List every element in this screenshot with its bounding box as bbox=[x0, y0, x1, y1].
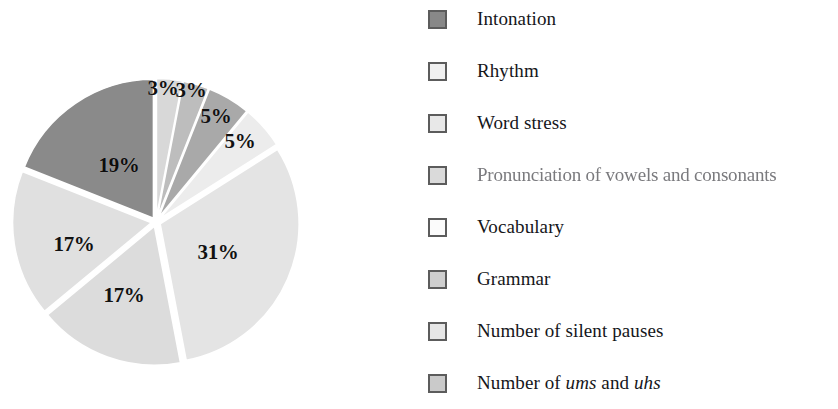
legend-swatch-icon bbox=[428, 114, 447, 133]
legend-item-label: Rhythm bbox=[477, 60, 539, 82]
legend-item-label: Pronunciation of vowels and consonants bbox=[477, 164, 777, 186]
legend-item[interactable]: Pronunciation of vowels and consonants bbox=[428, 162, 777, 188]
legend-swatch-icon bbox=[428, 218, 447, 237]
pie-chart-figure: 3%3%5%5%31%17%17%19% IntonationRhythmWor… bbox=[0, 0, 838, 409]
pie-slice-label: 5% bbox=[201, 106, 232, 127]
legend-item[interactable]: Vocabulary bbox=[428, 214, 564, 240]
pie-slice-label: 5% bbox=[225, 131, 256, 152]
pie-slice-label: 17% bbox=[53, 234, 94, 255]
legend-item[interactable]: Number of silent pauses bbox=[428, 318, 663, 344]
pie-slice-label: 3% bbox=[148, 78, 179, 99]
legend-swatch-icon bbox=[428, 270, 447, 289]
pie-slice-label: 31% bbox=[197, 242, 238, 263]
legend-item-label: Word stress bbox=[477, 112, 567, 134]
legend-swatch-icon bbox=[428, 166, 447, 185]
legend-item-label: Number of ums and uhs bbox=[477, 372, 661, 394]
legend-item-label: Grammar bbox=[477, 268, 551, 290]
legend-swatch-icon bbox=[428, 62, 447, 81]
legend-item[interactable]: Intonation bbox=[428, 6, 556, 32]
legend-item[interactable]: Number of ums and uhs bbox=[428, 370, 661, 396]
legend-item-label: Intonation bbox=[477, 8, 556, 30]
legend-swatch-icon bbox=[428, 374, 447, 393]
pie-slice-label: 19% bbox=[98, 155, 139, 176]
legend-item[interactable]: Grammar bbox=[428, 266, 551, 292]
legend-item[interactable]: Rhythm bbox=[428, 58, 539, 84]
legend-swatch-icon bbox=[428, 322, 447, 341]
pie-slice-label: 17% bbox=[103, 285, 144, 306]
legend-swatch-icon bbox=[428, 10, 447, 29]
legend-item-label: Number of silent pauses bbox=[477, 320, 663, 342]
pie-slices-svg bbox=[0, 55, 320, 395]
pie-chart-graphic: 3%3%5%5%31%17%17%19% bbox=[0, 55, 320, 395]
chart-legend: IntonationRhythmWord stressPronunciation… bbox=[428, 0, 838, 409]
legend-item-label: Vocabulary bbox=[477, 216, 564, 238]
pie-slice-label: 3% bbox=[176, 80, 207, 101]
legend-item[interactable]: Word stress bbox=[428, 110, 567, 136]
